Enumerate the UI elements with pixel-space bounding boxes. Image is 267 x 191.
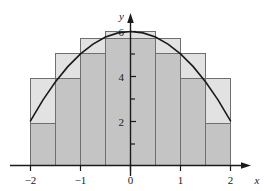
x-tick-label-1: 1 — [178, 174, 184, 186]
lower-bar — [31, 124, 56, 166]
x-tick-label-0: 0 — [128, 174, 134, 186]
y-axis-arrow-icon — [127, 13, 134, 23]
figure-container: 6 4 2 −2 −1 0 1 2 y x — [0, 0, 267, 191]
lower-bar — [106, 39, 131, 166]
y-tick-label-2: 2 — [119, 116, 125, 128]
lower-bar — [56, 79, 81, 166]
lower-bar — [131, 39, 156, 166]
x-axis-label: x — [254, 174, 260, 186]
x-tick-label-minus1: −1 — [75, 174, 87, 186]
y-axis-label: y — [118, 10, 124, 22]
x-tick-label-2: 2 — [228, 174, 234, 186]
lower-bar — [81, 54, 106, 166]
y-tick-label-6: 6 — [119, 26, 125, 38]
y-tick-label-4: 4 — [119, 71, 125, 83]
lower-bar — [156, 54, 181, 166]
lower-bar — [206, 124, 231, 166]
lower-bar — [181, 79, 206, 166]
x-axis-arrow-icon — [241, 162, 251, 169]
x-tick-label-minus2: −2 — [25, 174, 37, 186]
riemann-sum-chart: 6 4 2 −2 −1 0 1 2 y x — [0, 0, 267, 191]
